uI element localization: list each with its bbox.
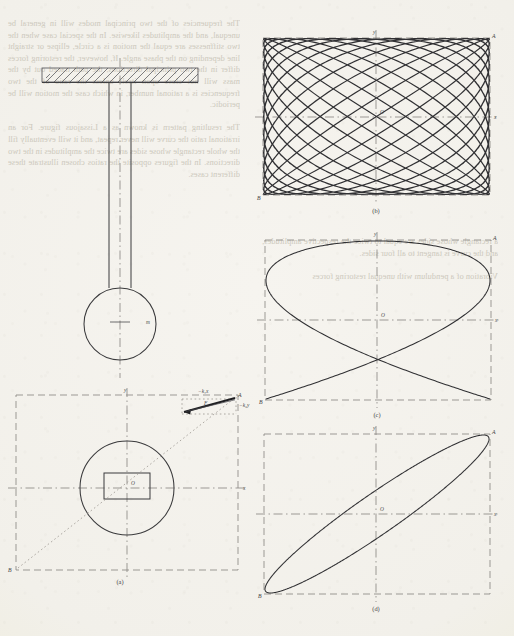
force-x-label: −k₁x [198, 388, 209, 394]
figure-c-label-O: O [381, 312, 385, 318]
figure-a-label-O: O [131, 480, 135, 486]
figure-d-label-O: O [380, 506, 384, 512]
force-y-label: −k₂y [239, 402, 250, 408]
figure-plate: m [0, 0, 514, 636]
figure-a-label-x: x [242, 485, 246, 491]
figure-d-label-x: x [493, 511, 497, 517]
figure-d-label-y: y [372, 425, 376, 431]
pendulum-elevation-view: m [42, 58, 198, 378]
scanned-page: The frequencies of the two principal mod… [0, 0, 514, 636]
figure-a-plan-view: −k₁x −k₂y F A B O y x (a) [8, 387, 250, 586]
figure-c-lissajous: A B O y x (c) [257, 231, 499, 419]
figure-b-label-A: A [491, 33, 496, 39]
figure-b-label-x: x [493, 114, 497, 120]
figure-d-label-B: B [258, 593, 262, 599]
figure-b-lissajous: A B O y x (b) [255, 29, 498, 215]
figure-c-label-y: y [373, 231, 377, 237]
figure-c-curve [266, 241, 490, 399]
mass-label: m [146, 319, 150, 325]
figure-c-caption: (c) [373, 411, 380, 419]
figure-b-label-B: B [257, 195, 261, 201]
figure-b-label-O: O [380, 109, 384, 115]
figure-b-curve [264, 39, 490, 195]
figure-a-label-A: A [237, 392, 242, 398]
figure-d-lissajous: A B O y x (d) [256, 425, 498, 613]
figure-b-label-y: y [372, 29, 376, 35]
figure-a-caption: (a) [116, 578, 123, 586]
figure-c-label-B: B [259, 399, 263, 405]
figure-d-caption: (d) [372, 605, 379, 613]
figure-c-label-x: x [494, 317, 498, 323]
figure-c-label-A: A [492, 235, 497, 241]
figure-a-label-y: y [123, 387, 127, 393]
figure-a-label-B: B [8, 567, 12, 573]
figure-d-label-A: A [491, 429, 496, 435]
figure-b-caption: (b) [372, 207, 379, 215]
resultant-label: F [203, 400, 208, 406]
